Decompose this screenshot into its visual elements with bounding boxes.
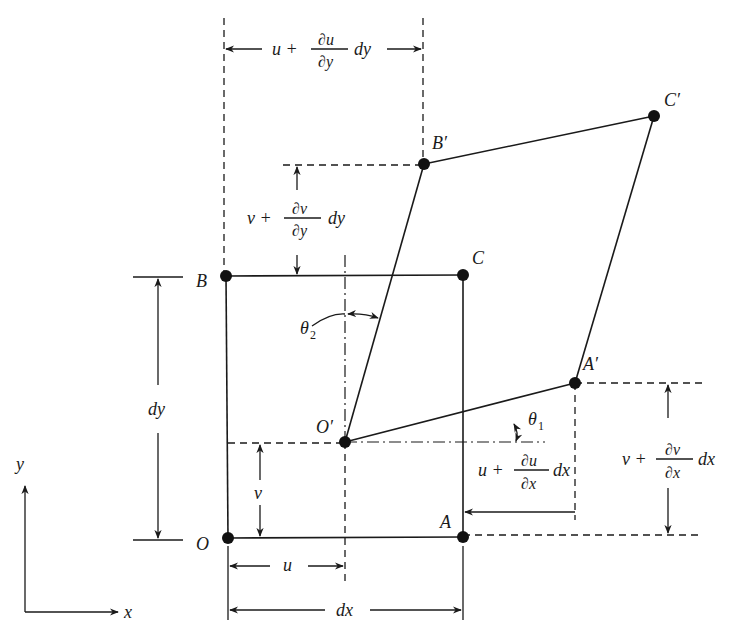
label-A-prime: A′ <box>582 354 599 374</box>
point-O-prime <box>339 436 351 448</box>
point-B-prime <box>418 158 430 170</box>
label-dx: dx <box>336 600 353 620</box>
svg-text:∂x: ∂x <box>665 464 680 481</box>
point-C-prime <box>648 110 660 122</box>
label-v-plus-dvdx-dx: v + ∂v ∂x dx <box>622 441 715 481</box>
point-B <box>220 270 232 282</box>
theta2-arc <box>348 314 378 318</box>
label-theta1: θ 1 <box>528 409 544 433</box>
svg-text:∂x: ∂x <box>521 475 536 492</box>
coordinate-axes: y x <box>14 454 132 622</box>
x-axis-label: x <box>123 602 132 622</box>
svg-text:θ: θ <box>300 318 309 338</box>
svg-text:dy: dy <box>354 39 371 59</box>
label-B-prime: B′ <box>432 133 448 153</box>
point-labels: O A B C O′ A′ B′ C′ <box>196 90 681 554</box>
svg-text:∂u: ∂u <box>318 31 334 48</box>
y-axis-label: y <box>14 454 24 474</box>
label-v-plus-dvdy-dy: v + ∂v ∂y dy <box>247 200 345 240</box>
label-C-prime: C′ <box>664 90 681 110</box>
label-u: u <box>283 555 292 575</box>
svg-text:dy: dy <box>328 208 345 228</box>
svg-text:1: 1 <box>538 419 544 433</box>
reference-lines <box>133 18 703 620</box>
svg-text:u +: u + <box>478 460 504 480</box>
point-A-prime <box>569 377 581 389</box>
point-A <box>457 531 469 543</box>
label-v: v <box>254 483 262 503</box>
svg-text:u +: u + <box>272 39 298 59</box>
point-O <box>222 532 234 544</box>
label-O-prime: O′ <box>316 417 334 437</box>
svg-text:θ: θ <box>528 409 537 429</box>
svg-text:2: 2 <box>310 328 316 342</box>
svg-text:∂v: ∂v <box>665 441 681 458</box>
point-C <box>457 269 469 281</box>
theta2-leader <box>312 314 345 326</box>
svg-text:∂v: ∂v <box>292 200 308 217</box>
svg-text:v +: v + <box>622 449 647 469</box>
label-dy: dy <box>148 399 165 419</box>
svg-text:∂y: ∂y <box>318 53 334 71</box>
svg-text:∂y: ∂y <box>292 222 308 240</box>
theta1-arc <box>514 424 517 441</box>
label-theta2: θ 2 <box>300 318 316 342</box>
label-C: C <box>472 248 485 268</box>
label-O: O <box>196 534 209 554</box>
svg-text:∂u: ∂u <box>521 452 537 469</box>
strain-diagram: y x <box>0 0 737 640</box>
label-A: A <box>439 512 452 532</box>
svg-text:v +: v + <box>247 208 272 228</box>
points <box>220 110 660 544</box>
label-u-plus-dudx-dx: u + ∂u ∂x dx <box>478 452 570 492</box>
label-B: B <box>196 271 207 291</box>
svg-text:dx: dx <box>698 449 715 469</box>
label-u-plus-dudy-dy: u + ∂u ∂y dy <box>272 31 371 71</box>
svg-text:dx: dx <box>553 460 570 480</box>
